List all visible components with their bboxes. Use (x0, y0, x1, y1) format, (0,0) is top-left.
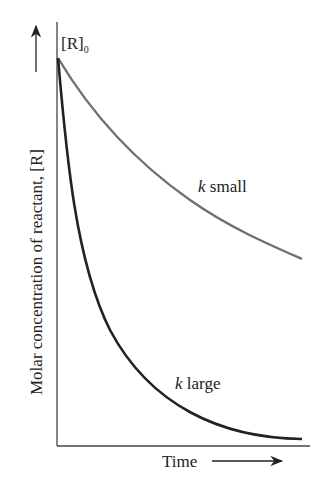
r0-label: [R]0 (61, 34, 89, 55)
x-axis-label: Time (162, 452, 197, 471)
reaction-rate-chart: [R]0 k small k large Time Molar concentr… (0, 0, 330, 491)
k-large-label: k large (175, 374, 220, 393)
y-axis-label: Molar concentration of reactant, [R] (27, 149, 46, 395)
k-small-curve (58, 58, 302, 259)
k-small-label: k small (198, 177, 247, 196)
